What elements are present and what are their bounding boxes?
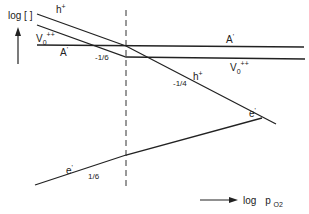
e-prime-label-left: e' bbox=[66, 164, 73, 176]
slope-plus-one-sixth: 1/6 bbox=[88, 172, 100, 181]
a-prime-label-left: A' bbox=[60, 46, 68, 58]
x-axis-arrow-icon bbox=[200, 197, 238, 203]
e-prime-label-right: e' bbox=[249, 107, 256, 119]
slope-minus-one-quarter: -1/4 bbox=[173, 79, 187, 88]
x-axis-label: log p O2 bbox=[243, 195, 283, 208]
y-axis-label: log [ ] bbox=[8, 10, 33, 21]
v-oxygen-line bbox=[37, 25, 305, 59]
a-prime-label-right: A' bbox=[226, 33, 234, 45]
v-oxygen-label-left: V0++ bbox=[36, 31, 55, 46]
h-plus-label-left: h+ bbox=[56, 3, 66, 15]
v-oxygen-label-right: V0++ bbox=[230, 60, 249, 75]
y-axis-arrow-icon bbox=[15, 27, 21, 64]
defect-diagram: log [ ] log p O2 h+ h+ V0++ V0++ A' A' e… bbox=[0, 0, 309, 214]
slope-minus-one-sixth: -1/6 bbox=[95, 53, 109, 62]
a-prime-line bbox=[37, 45, 304, 47]
h-plus-label-right: h+ bbox=[193, 70, 203, 82]
